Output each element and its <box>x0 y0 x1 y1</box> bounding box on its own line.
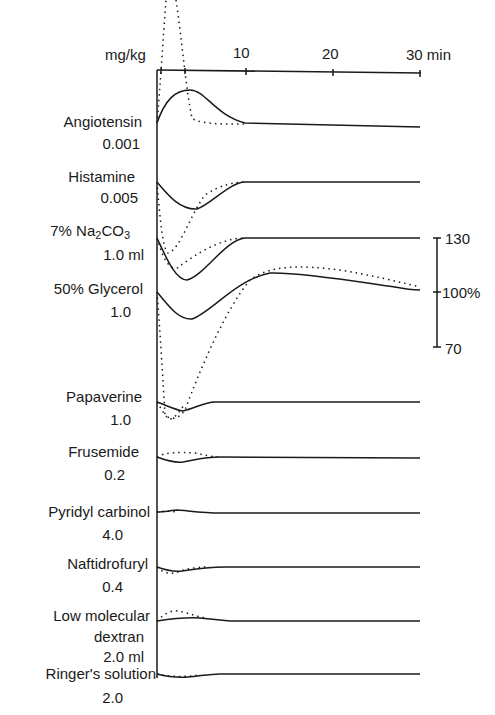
scale-label-100: 100% <box>442 284 480 301</box>
curve-papaverine-solid <box>157 402 420 411</box>
dose-glycerol: 1.0 <box>110 303 131 320</box>
label-glycerol: 50% Glycerol <box>54 280 143 297</box>
curve-angiotensin-solid <box>157 90 420 127</box>
dose-na2co3: 1.0 ml <box>103 246 144 263</box>
x-tick-10: 10 <box>233 44 250 61</box>
label-dextran-line1: Low molecular <box>53 607 150 624</box>
curve-frusemide-dotted <box>157 452 220 457</box>
label-angiotensin: Angiotensin <box>64 113 142 130</box>
dose-pyridyl-carbinol: 4.0 <box>102 526 123 543</box>
dose-papaverine: 1.0 <box>110 411 131 428</box>
dose-histamine: 0.005 <box>100 189 138 206</box>
dose-naftidrofuryl: 0.4 <box>102 578 123 595</box>
scale-label-130: 130 <box>445 230 470 247</box>
dose-ringers: 2.0 <box>102 689 123 706</box>
x-tick-30: 30 min <box>406 46 451 63</box>
label-dextran-line2: dextran <box>94 628 144 645</box>
curve-naftidrofuryl-solid <box>157 567 420 571</box>
x-axis-unit-label: mg/kg <box>105 46 146 63</box>
dose-angiotensin: 0.001 <box>102 135 140 152</box>
label-histamine: Histamine <box>68 168 135 185</box>
scale-label-70: 70 <box>445 340 462 357</box>
curve-dextran-solid <box>157 618 420 621</box>
label-papaverine: Papaverine <box>66 388 142 405</box>
label-frusemide: Frusemide <box>68 443 139 460</box>
curve-glycerol-dotted <box>157 267 420 418</box>
curve-frusemide-solid <box>157 457 420 462</box>
curve-angiotensin-dotted <box>157 0 245 124</box>
dose-dextran: 2.0 ml <box>103 648 144 665</box>
label-na2co3: 7% Na2CO3 <box>50 222 130 239</box>
x-axis <box>157 70 421 73</box>
x-tick-20: 20 <box>322 45 339 62</box>
curve-histamine-solid <box>157 182 420 209</box>
label-pyridyl-carbinol: Pyridyl carbinol <box>48 503 150 520</box>
curve-histamine-dotted <box>157 182 245 253</box>
curve-pyridyl-solid <box>157 510 420 513</box>
label-ringers: Ringer's solution <box>46 665 156 682</box>
dose-frusemide: 0.2 <box>104 466 125 483</box>
label-naftidrofuryl: Naftidrofuryl <box>67 555 148 572</box>
curve-glycerol-solid <box>157 273 420 319</box>
